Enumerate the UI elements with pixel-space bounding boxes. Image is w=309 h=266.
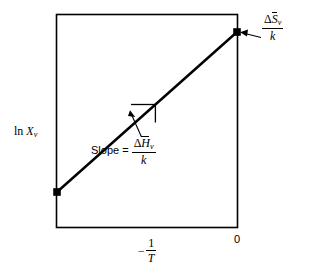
entropy-arrow-shaft xyxy=(245,34,261,38)
x-axis-label-minus: − xyxy=(138,244,145,258)
data-line xyxy=(57,32,237,192)
x-axis-zero-tick-label: 0 xyxy=(234,234,240,245)
slope-expression: ΔHv k xyxy=(132,143,156,157)
entropy-delta-symbol: Δ xyxy=(264,12,272,26)
x-axis-label-denominator: T xyxy=(146,251,157,264)
slope-denominator: k xyxy=(132,153,156,166)
plot-border xyxy=(57,15,238,228)
slope-subscript: v xyxy=(150,142,154,151)
entropy-arrow-head xyxy=(240,30,248,37)
slope-annotation-text: Slope = xyxy=(91,144,129,156)
x-axis-label-fraction: 1 T xyxy=(146,237,157,264)
data-point-left-marker xyxy=(53,188,61,196)
x-axis-label-numerator: 1 xyxy=(146,237,157,251)
slope-fraction: ΔHv k xyxy=(132,137,156,166)
entropy-leader-arrow xyxy=(240,30,261,38)
y-axis-label-subscript: v xyxy=(34,130,38,139)
x-axis-label: − 1 T xyxy=(138,237,156,264)
slope-variable: H xyxy=(141,137,150,149)
y-axis-label-variable: X xyxy=(26,124,33,138)
entropy-denominator: k xyxy=(262,29,283,42)
entropy-intercept-label: ΔSv k xyxy=(262,13,283,42)
entropy-numerator: ΔSv xyxy=(262,13,283,29)
entropy-fraction: ΔSv k xyxy=(262,13,283,42)
axes-frame xyxy=(57,15,238,228)
entropy-subscript: v xyxy=(278,18,282,27)
entropy-variable: S xyxy=(272,13,278,25)
slope-arrow-head xyxy=(128,110,135,117)
y-axis-label: ln Xv xyxy=(14,125,37,139)
data-line-group xyxy=(53,28,241,196)
slope-numerator: ΔHv xyxy=(132,137,156,153)
thermodynamic-plot-figure: ln Xv − 1 T 0 ΔSv k Slope = ΔHv k xyxy=(0,0,309,266)
data-point-right-marker xyxy=(233,28,241,36)
y-axis-label-prefix: ln xyxy=(14,124,23,138)
slope-annotation: Slope = ΔHv k xyxy=(91,137,156,166)
